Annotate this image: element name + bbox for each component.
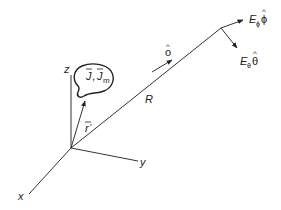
- y-axis-label: y: [139, 156, 147, 168]
- svg-text:′: ′: [90, 122, 92, 132]
- r-prime-vector: [71, 101, 85, 148]
- svg-text:J: J: [96, 70, 103, 82]
- z-axis-label: z: [63, 63, 70, 75]
- R-vector: [71, 28, 221, 148]
- svg-text:θ: θ: [247, 62, 251, 69]
- svg-text:ϕ: ϕ: [261, 13, 267, 25]
- svg-text:θ: θ: [252, 55, 258, 67]
- x-axis-label: x: [17, 190, 24, 202]
- R-label: R: [145, 93, 153, 105]
- svg-text:ϕ: ϕ: [256, 20, 260, 28]
- e-phi-vector: [221, 20, 243, 28]
- e-theta-label: E θ ^ θ: [240, 49, 258, 69]
- o-hat-label: ^ o: [165, 42, 171, 58]
- svg-text:o: o: [165, 46, 171, 58]
- svg-text:m: m: [103, 76, 110, 85]
- svg-text:J: J: [85, 70, 92, 82]
- y-axis: [71, 148, 138, 161]
- x-axis: [29, 148, 71, 194]
- svg-text:,: ,: [92, 70, 95, 82]
- e-theta-vector: [221, 28, 237, 48]
- e-phi-label: E ϕ ^ ϕ: [249, 7, 267, 28]
- antenna-geometry-diagram: z y x J , J m r ′ R ^ o E ϕ ^ ϕ E θ ^ θ: [0, 0, 281, 210]
- source-current-label: J , J m: [85, 69, 110, 85]
